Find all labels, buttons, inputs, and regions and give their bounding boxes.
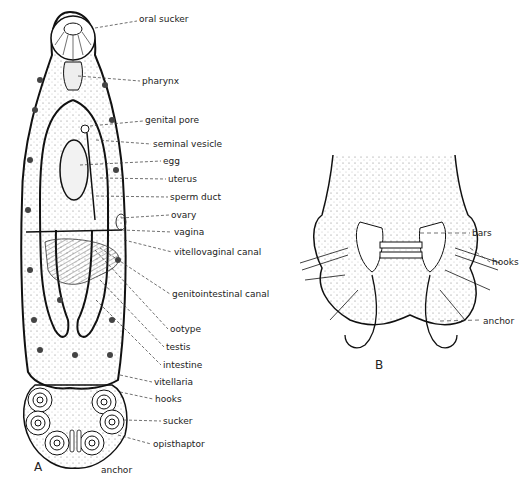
label-pharynx: pharynx xyxy=(142,76,179,86)
label-opisthaptor: opisthaptor xyxy=(153,439,205,449)
haptor-outline xyxy=(314,155,478,325)
label-egg: egg xyxy=(163,156,180,166)
monogenean-anatomy-figure xyxy=(0,0,531,481)
label-bars: bars xyxy=(472,228,492,238)
panel-letter-a: A xyxy=(34,460,42,474)
label-genitointestinal-canal: genitointestinal canal xyxy=(172,289,269,299)
label-ootype: ootype xyxy=(170,324,201,334)
label-ovary: ovary xyxy=(171,210,196,220)
label-vitellovaginal-canal: vitellovaginal canal xyxy=(174,247,261,257)
label-testis: testis xyxy=(166,342,190,352)
label-anchor-a: anchor xyxy=(101,465,132,475)
panel-letter-b: B xyxy=(375,358,383,372)
seminal-vesicle xyxy=(81,125,89,133)
ovary xyxy=(116,214,126,230)
label-anchor-b: anchor xyxy=(483,316,514,326)
label-vitellaria: vitellaria xyxy=(154,377,193,387)
label-oral-sucker: oral sucker xyxy=(139,14,189,24)
label-sperm-duct: sperm duct xyxy=(170,192,221,202)
label-sucker: sucker xyxy=(163,416,192,426)
oral-sucker xyxy=(51,16,95,60)
label-hooks-b: hooks xyxy=(492,257,519,267)
panel-b-haptor-detail xyxy=(300,155,500,348)
label-vagina: vagina xyxy=(174,227,204,237)
label-seminal-vesicle: seminal vesicle xyxy=(153,139,222,149)
label-uterus: uterus xyxy=(168,174,197,184)
egg xyxy=(60,140,88,200)
label-intestine: intestine xyxy=(163,360,202,370)
label-hooks-a: hooks xyxy=(155,394,182,404)
label-genital-pore: genital pore xyxy=(145,115,199,125)
